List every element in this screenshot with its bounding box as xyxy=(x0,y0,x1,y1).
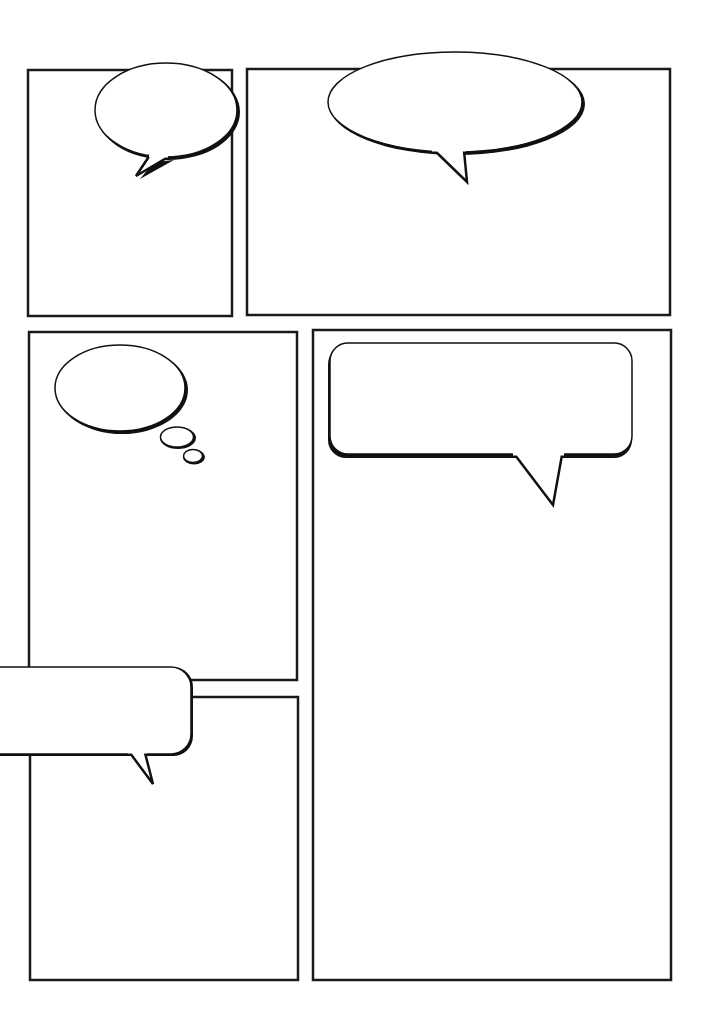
comic-page: Blank comic page template xyxy=(0,0,713,1032)
comic-layout xyxy=(0,0,713,1032)
